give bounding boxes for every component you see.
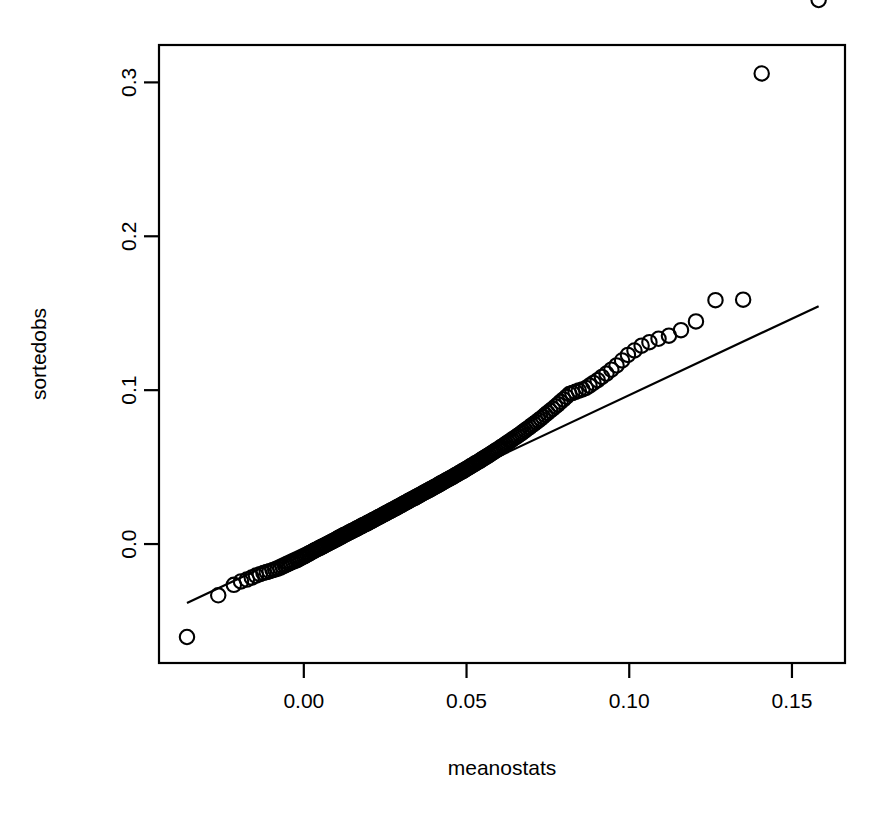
x-tick-label: 0.05: [446, 689, 487, 712]
x-axis-ticks: [304, 663, 792, 678]
x-tick-label: 0.00: [283, 689, 324, 712]
y-axis-title: sortedobs: [27, 308, 50, 400]
x-tick-label: 0.15: [772, 689, 813, 712]
data-point: [180, 630, 194, 644]
x-tick-label: 0.10: [609, 689, 650, 712]
x-axis-title: meanostats: [448, 756, 557, 779]
y-tick-label: 0.0: [118, 529, 141, 558]
data-point: [674, 323, 688, 337]
y-tick-label: 0.1: [118, 376, 141, 405]
data-point: [689, 314, 703, 328]
data-point: [811, 0, 825, 7]
x-axis-tick-labels: 0.000.050.100.15: [283, 689, 812, 712]
data-point: [736, 292, 750, 306]
y-tick-label: 0.2: [118, 222, 141, 251]
y-axis-ticks: [144, 82, 159, 544]
data-point: [211, 588, 225, 602]
data-point: [754, 66, 768, 80]
qq-plot-figure: 0.000.050.100.15 0.00.10.20.3 meanostats…: [0, 0, 882, 814]
data-point: [708, 293, 722, 307]
scatter-points-group: [180, 0, 826, 644]
y-axis-tick-labels: 0.00.10.20.3: [118, 68, 141, 559]
plot-canvas: 0.000.050.100.15 0.00.10.20.3 meanostats…: [0, 0, 882, 814]
y-tick-label: 0.3: [118, 68, 141, 97]
